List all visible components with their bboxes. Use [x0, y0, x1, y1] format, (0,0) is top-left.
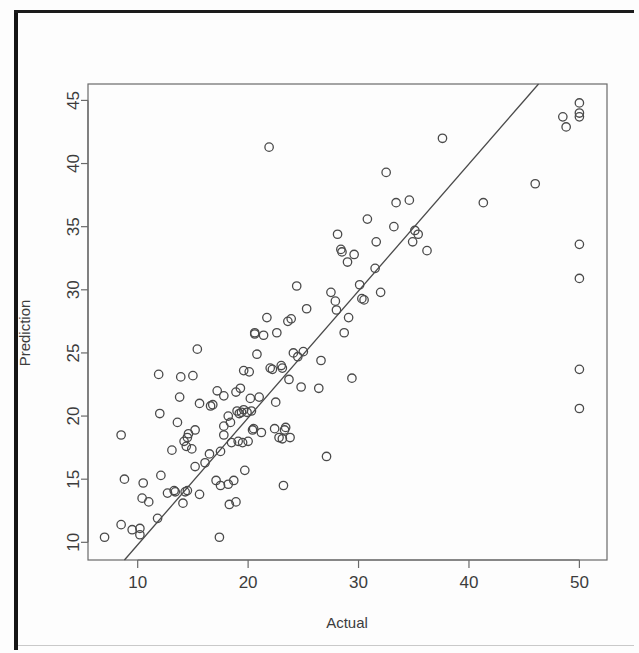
data-point	[327, 288, 335, 296]
data-point	[340, 329, 348, 337]
data-point	[128, 526, 136, 534]
data-point	[390, 222, 398, 230]
data-point	[531, 180, 539, 188]
data-point	[215, 533, 223, 541]
data-point	[392, 198, 400, 206]
data-point	[246, 394, 254, 402]
x-axis-tick-label: 30	[349, 573, 368, 592]
data-point	[117, 431, 125, 439]
data-point	[220, 392, 228, 400]
y-axis-tick-label: 10	[65, 533, 84, 552]
data-point	[286, 433, 294, 441]
chart-canvas: 1015202530354045 1020304050 Prediction A…	[0, 0, 639, 653]
x-axis: 1020304050	[128, 560, 589, 592]
scatter-points	[100, 99, 583, 542]
data-point	[562, 123, 570, 131]
data-point	[216, 481, 224, 489]
data-point	[195, 490, 203, 498]
data-point	[191, 426, 199, 434]
data-point	[344, 313, 352, 321]
data-point	[363, 215, 371, 223]
data-point	[575, 404, 583, 412]
data-point	[285, 375, 293, 383]
data-point	[331, 297, 339, 305]
y-axis-tick-label: 25	[65, 343, 84, 362]
data-point	[173, 418, 181, 426]
data-point	[201, 459, 209, 467]
data-point	[272, 398, 280, 406]
data-point	[245, 368, 253, 376]
data-point	[120, 475, 128, 483]
data-point	[255, 393, 263, 401]
data-point	[191, 462, 199, 470]
data-point	[279, 481, 287, 489]
data-point	[139, 479, 147, 487]
data-point	[168, 446, 176, 454]
figure-page: 1015202530354045 1020304050 Prediction A…	[0, 0, 639, 653]
data-point	[154, 370, 162, 378]
data-point	[259, 331, 267, 339]
data-point	[175, 393, 183, 401]
data-point	[293, 282, 301, 290]
data-point	[216, 447, 224, 455]
data-point	[350, 250, 358, 258]
data-point	[408, 238, 416, 246]
x-axis-title: Actual	[326, 614, 368, 631]
data-point	[355, 281, 363, 289]
data-point	[205, 450, 213, 458]
data-point	[189, 371, 197, 379]
data-point	[575, 240, 583, 248]
y-axis-tick-label: 20	[65, 407, 84, 426]
data-point	[257, 428, 265, 436]
y-axis-tick-label: 45	[65, 91, 84, 110]
x-axis-tick-label: 50	[570, 573, 589, 592]
data-point	[348, 374, 356, 382]
data-point	[253, 350, 261, 358]
y-axis-tick-label: 35	[65, 217, 84, 236]
data-point	[405, 196, 413, 204]
y-axis-tick-label: 15	[65, 470, 84, 489]
data-point	[372, 238, 380, 246]
data-point	[575, 99, 583, 107]
data-point	[177, 373, 185, 381]
x-axis-tick-label: 10	[128, 573, 147, 592]
data-point	[263, 313, 271, 321]
data-point	[100, 533, 108, 541]
x-axis-tick-label: 20	[239, 573, 258, 592]
data-point	[270, 424, 278, 432]
data-point	[575, 365, 583, 373]
identity-line	[124, 84, 538, 560]
data-point	[559, 113, 567, 121]
identity-reference-line	[124, 84, 538, 560]
data-point	[156, 409, 164, 417]
data-point	[241, 466, 249, 474]
data-point	[195, 399, 203, 407]
data-point	[179, 499, 187, 507]
data-point	[333, 230, 341, 238]
data-point	[332, 306, 340, 314]
data-point	[382, 168, 390, 176]
y-axis-tick-label: 30	[65, 280, 84, 299]
y-axis-tick-label: 40	[65, 154, 84, 173]
data-point	[265, 143, 273, 151]
data-point	[273, 329, 281, 337]
data-point	[212, 476, 220, 484]
data-point	[297, 383, 305, 391]
data-point	[479, 198, 487, 206]
data-point	[244, 437, 252, 445]
data-point	[145, 498, 153, 506]
data-point	[575, 274, 583, 282]
data-point	[136, 524, 144, 532]
data-point	[322, 452, 330, 460]
y-axis-title: Prediction	[16, 300, 33, 367]
data-point	[240, 366, 248, 374]
data-point	[220, 431, 228, 439]
data-point	[315, 384, 323, 392]
data-point	[117, 520, 125, 528]
y-axis: 1015202530354045	[65, 91, 89, 552]
data-point	[317, 356, 325, 364]
data-point	[376, 288, 384, 296]
data-point	[157, 471, 165, 479]
scatter-plot-figure: 1015202530354045 1020304050 Prediction A…	[0, 0, 639, 653]
data-point	[193, 345, 201, 353]
